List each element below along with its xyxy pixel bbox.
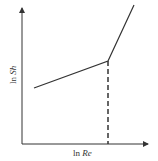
plot-svg: ln Re ln Sh	[0, 0, 158, 161]
y-axis-label: ln Sh	[8, 65, 18, 84]
diagram: ln Re ln Sh	[0, 0, 158, 161]
x-axis-label: ln Re	[73, 148, 92, 158]
curve	[34, 5, 134, 88]
